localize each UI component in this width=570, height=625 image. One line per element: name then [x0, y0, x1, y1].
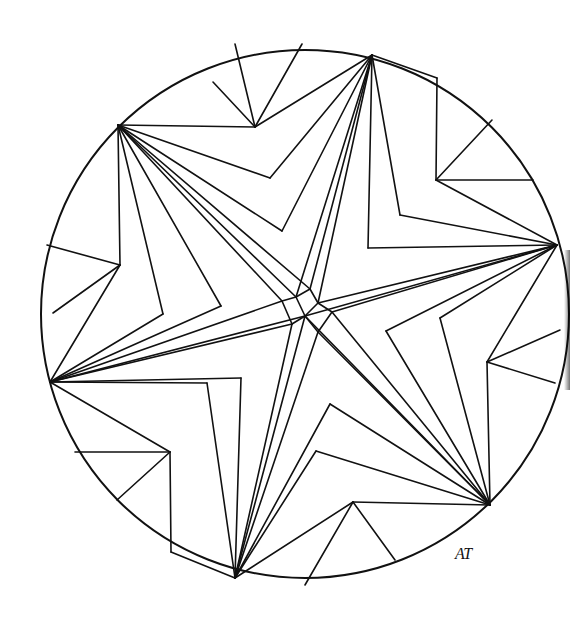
- star-line: [235, 332, 318, 578]
- star-line: [53, 265, 120, 313]
- star-line: [305, 245, 557, 316]
- star-line: [487, 362, 490, 505]
- star-line: [353, 502, 395, 560]
- star-line: [386, 331, 490, 505]
- star-line: [47, 245, 120, 265]
- star-line: [318, 312, 332, 332]
- star-line: [353, 502, 490, 505]
- star-line: [255, 44, 302, 127]
- artist-signature: AT: [455, 545, 471, 563]
- star-line: [305, 502, 353, 585]
- star-line: [170, 452, 171, 552]
- star-line: [296, 297, 305, 316]
- star-line: [372, 55, 400, 215]
- star-line: [118, 125, 163, 314]
- star-line: [440, 318, 490, 505]
- star-line: [310, 289, 318, 303]
- star-line: [400, 215, 557, 245]
- star-line: [207, 383, 235, 578]
- star-line: [118, 125, 255, 127]
- star-line: [118, 125, 310, 289]
- star-line: [368, 55, 372, 248]
- star-line: [235, 316, 305, 578]
- star-line: [318, 245, 557, 303]
- star-line: [118, 125, 282, 301]
- star-line: [487, 362, 555, 383]
- star-line: [235, 404, 330, 578]
- star-line: [118, 125, 221, 306]
- star-line: [50, 378, 241, 382]
- star-line: [368, 245, 557, 248]
- star-line: [332, 312, 490, 505]
- star-line: [118, 125, 282, 231]
- star-line: [235, 378, 241, 578]
- star-lines: [47, 44, 560, 585]
- star-line: [305, 316, 318, 332]
- star-line: [330, 404, 490, 505]
- star-line: [50, 265, 120, 382]
- star-line: [310, 55, 372, 289]
- star-line: [50, 301, 282, 382]
- star-line: [372, 55, 437, 78]
- star-line: [118, 125, 120, 265]
- star-line: [117, 452, 170, 500]
- mandala-drawing: [0, 0, 570, 625]
- star-line: [487, 330, 560, 362]
- star-line: [296, 55, 372, 297]
- star-line: [282, 55, 372, 231]
- star-line: [318, 55, 372, 303]
- star-line: [118, 125, 296, 297]
- star-line: [436, 78, 437, 180]
- star-line: [213, 82, 255, 127]
- star-line: [235, 324, 292, 578]
- star-line: [436, 120, 492, 180]
- scan-edge-shadow: [564, 250, 570, 390]
- star-line: [50, 382, 170, 452]
- star-line: [440, 245, 557, 318]
- star-line: [118, 125, 270, 178]
- star-line: [235, 451, 316, 578]
- star-line: [282, 297, 296, 301]
